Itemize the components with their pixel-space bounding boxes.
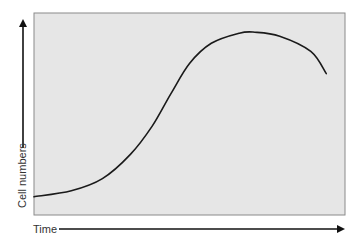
growth-curve-chart: Cell numbers Time [0, 0, 363, 245]
y-axis-label: Cell numbers [16, 143, 28, 208]
x-axis-label: Time [33, 223, 57, 235]
